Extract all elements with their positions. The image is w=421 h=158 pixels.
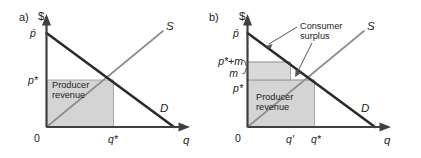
- panel-b-p-star-plus-m-label: p*+m: [217, 55, 243, 67]
- panel-a-demand-label: D: [160, 102, 168, 114]
- panel-a-x-axis-label: q: [183, 134, 190, 146]
- panel-a-region-label-line1: Producer: [52, 80, 89, 90]
- panel-b-x-axis-label: q: [384, 134, 391, 146]
- panel-a-supply-label: S: [166, 20, 174, 32]
- panel-a: a) $ q p̄ p* 0 q* S D Pro: [19, 10, 190, 146]
- panel-a-p-bar-label: p̄: [29, 27, 36, 39]
- panel-b-m-label: m: [229, 67, 238, 79]
- panel-b-annotation-line1: Consumer: [300, 21, 342, 31]
- panel-b-label: b): [209, 11, 219, 23]
- panel-b-origin-label: 0: [235, 132, 241, 144]
- panel-b-annotation-arrow-1: [269, 27, 297, 44]
- economics-figure: a) $ q p̄ p* 0 q* S D Pro: [0, 0, 421, 158]
- panel-a-q-star-label: q*: [108, 133, 119, 145]
- panel-b-q-star-label: q*: [311, 133, 322, 145]
- panel-b-p-star-label: p*: [232, 82, 244, 94]
- panel-b-region-label-line2: revenue: [256, 102, 289, 112]
- panel-b-annotation-arrow-2: [297, 43, 312, 73]
- figure-canvas: a) $ q p̄ p* 0 q* S D Pro: [0, 0, 421, 158]
- panel-b-y-axis-label: $: [239, 10, 246, 22]
- panel-b-markup-region: [248, 62, 291, 80]
- panel-a-p-star-label: p*: [27, 74, 39, 86]
- panel-b-annotation-line2: surplus: [300, 31, 330, 41]
- panel-b-supply-label: S: [367, 20, 375, 32]
- panel-a-label: a): [19, 11, 29, 23]
- panel-b-q-prime-label: q': [286, 133, 295, 145]
- panel-b-region-label-line1: Producer: [256, 92, 293, 102]
- panel-a-y-axis-label: $: [38, 10, 45, 22]
- panel-a-x-axis-arrow: [179, 123, 191, 132]
- panel-b: b) $ q p̄ p*+m m: [209, 10, 391, 146]
- panel-a-origin-label: 0: [34, 132, 40, 144]
- panel-b-x-axis-arrow: [380, 123, 392, 132]
- panel-b-p-bar-label: p̄: [232, 27, 239, 39]
- panel-a-region-label-line2: revenue: [52, 90, 85, 100]
- panel-b-demand-label: D: [361, 102, 369, 114]
